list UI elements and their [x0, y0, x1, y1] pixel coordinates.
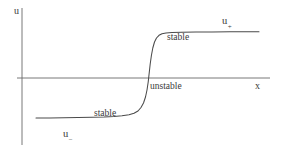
stable-lower-label: stable [94, 109, 116, 119]
figure-canvas [0, 0, 281, 153]
bistable-front-figure: u x u+ u− stable unstable stable [0, 0, 281, 153]
u-plus-base: u [222, 15, 227, 26]
u-minus-label: u− [63, 129, 72, 142]
u-plus-subscript: + [228, 23, 232, 31]
front-profile-curve [36, 32, 259, 118]
u-minus-base: u [63, 128, 68, 139]
y-axis-label: u [14, 6, 19, 16]
unstable-label: unstable [150, 82, 182, 92]
u-minus-subscript: − [69, 136, 73, 144]
stable-upper-label: stable [167, 33, 189, 43]
x-axis-label: x [255, 81, 260, 91]
u-plus-label: u+ [222, 16, 231, 29]
